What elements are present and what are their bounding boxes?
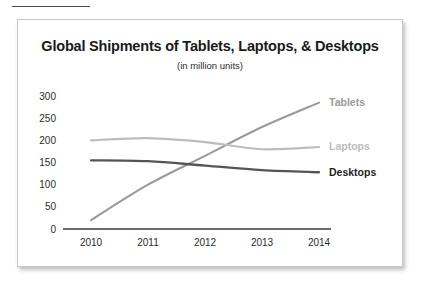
x-axis-tick-labels: 20102011201220132014 — [80, 237, 331, 248]
y-axis-tick-labels: 050100150200250300 — [39, 91, 56, 235]
line-chart-plot: 050100150200250300 20102011201220132014 … — [18, 20, 402, 266]
top-divider-rule — [12, 6, 90, 7]
series-label-laptops: Laptops — [329, 140, 370, 152]
series-label-desktops: Desktops — [329, 166, 376, 178]
y-tick-label: 100 — [39, 179, 56, 190]
series-label-tablets: Tablets — [329, 96, 365, 108]
x-tick-label: 2011 — [137, 237, 159, 248]
series-lines-group — [91, 103, 319, 220]
x-tick-label: 2012 — [194, 237, 217, 248]
series-line-laptops — [91, 138, 319, 149]
y-tick-label: 250 — [39, 113, 56, 124]
y-tick-label: 150 — [39, 157, 56, 168]
chart-frame: Global Shipments of Tablets, Laptops, & … — [17, 19, 403, 267]
x-tick-label: 2010 — [80, 237, 103, 248]
x-tick-label: 2014 — [308, 237, 331, 248]
y-tick-label: 0 — [50, 224, 56, 235]
y-tick-label: 300 — [39, 91, 56, 102]
y-tick-label: 50 — [45, 201, 57, 212]
series-labels-group: TabletsLaptopsDesktops — [329, 96, 376, 178]
series-line-desktops — [91, 160, 319, 172]
x-tick-label: 2013 — [251, 237, 274, 248]
y-tick-label: 200 — [39, 135, 56, 146]
